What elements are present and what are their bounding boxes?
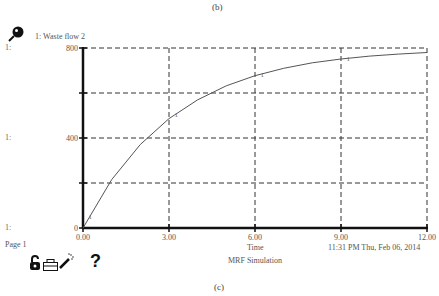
svg-text:400: 400 — [66, 134, 78, 143]
svg-text:9.00: 9.00 — [334, 233, 348, 242]
page-label: Page 1 — [5, 240, 27, 249]
svg-text:800: 800 — [66, 44, 78, 53]
tick-labels: 0.003.006.009.0012.000400800 — [66, 44, 436, 242]
timestamp: 11:31 PM Thu, Feb 06, 2014 — [328, 243, 420, 252]
help-button[interactable]: ? — [90, 251, 101, 272]
magic-wand-icon[interactable] — [59, 253, 74, 269]
model-name: MRF Simulation — [228, 256, 282, 265]
svg-text:1: 1 — [88, 213, 92, 221]
x-axis-title: Time — [247, 243, 264, 252]
svg-text:0: 0 — [74, 224, 78, 233]
svg-text:0.00: 0.00 — [76, 233, 90, 242]
svg-text:1: 1 — [346, 55, 350, 63]
svg-text:1: 1 — [260, 71, 264, 79]
chart-axes — [79, 47, 428, 232]
figure-caption-c: (c) — [214, 282, 224, 292]
svg-text:12.00: 12.00 — [418, 233, 436, 242]
svg-text:6.00: 6.00 — [248, 233, 262, 242]
svg-text:1: 1 — [174, 111, 178, 119]
svg-text:3.00: 3.00 — [162, 233, 176, 242]
unlock-icon[interactable] — [29, 255, 41, 270]
printer-icon[interactable] — [43, 257, 58, 269]
chart-grid — [83, 48, 427, 228]
